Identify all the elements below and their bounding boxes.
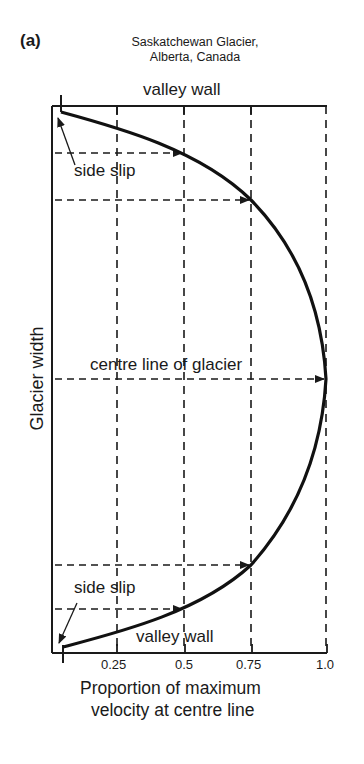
- side-slip-top-label: side slip: [74, 161, 135, 181]
- velocity-diagram: [0, 0, 364, 764]
- side-slip-bottom-label: side slip: [74, 578, 135, 598]
- x-axis-label-line-1: Proportion of maximum: [80, 678, 261, 699]
- velocity-arrows: [55, 153, 324, 609]
- centre-line-label: centre line of glacier: [90, 355, 242, 375]
- y-axis-label: Glacier width: [27, 314, 48, 444]
- valley-wall-bottom-label: valley wall: [136, 627, 213, 647]
- valley-wall-top-label: valley wall: [143, 80, 220, 100]
- x-axis-label-line-2: velocity at centre line: [91, 700, 254, 721]
- x-tick-0.25: 0.25: [101, 657, 126, 672]
- x-tick-0.5: 0.5: [175, 657, 193, 672]
- x-tick-0.75: 0.75: [236, 657, 261, 672]
- x-tick-1.0: 1.0: [316, 657, 334, 672]
- gridlines: [117, 106, 326, 653]
